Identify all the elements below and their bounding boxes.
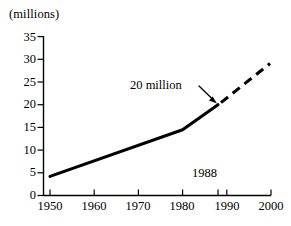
y-tick-label-15: 15	[10, 121, 36, 134]
y-axis-ticks	[38, 37, 44, 196]
y-tick-label-10: 10	[10, 144, 36, 157]
y-tick-label-20: 20	[10, 98, 36, 111]
x-axis-ticks	[50, 190, 271, 196]
x-tick-label-1950: 1950	[28, 200, 72, 213]
y-tick-label-30: 30	[10, 53, 36, 66]
x-tick-label-1980: 1980	[160, 200, 204, 213]
y-tick-label-35: 35	[10, 31, 36, 44]
y-tick-label-5: 5	[10, 166, 36, 179]
x-tick-label-1970: 1970	[116, 200, 160, 213]
annotation-year-1988: 1988	[192, 166, 217, 180]
annotation-20-million: 20 million	[130, 78, 182, 92]
y-tick-label-25: 25	[10, 76, 36, 89]
x-tick-label-1990: 1990	[205, 200, 249, 213]
chart-figure: (millions)	[0, 0, 291, 226]
line-chart-plot	[0, 0, 291, 226]
x-tick-label-1960: 1960	[72, 200, 116, 213]
callout-arrow-icon	[199, 86, 217, 104]
x-tick-label-2000: 2000	[249, 200, 291, 213]
series-projected-line	[221, 64, 270, 103]
